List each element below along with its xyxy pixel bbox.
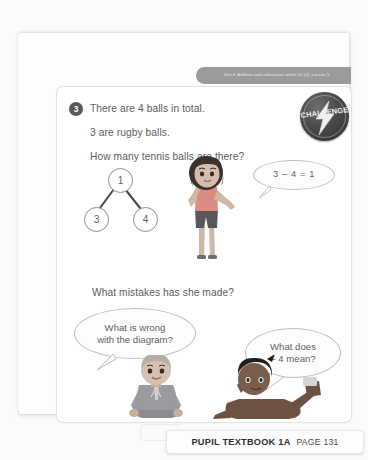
part-whole-diagram: 1 3 4 [75, 167, 167, 237]
unit-banner-text: Unit 4: Addition and subtraction within … [224, 73, 330, 78]
page-sheet: Unit 4: Addition and subtraction within … [19, 33, 349, 414]
lying-boy [213, 355, 321, 419]
textbook-page-viewer: Unit 4: Addition and subtraction within … [0, 0, 368, 460]
girl-character-illustration [169, 155, 243, 263]
part-whole-part-b: 4 [133, 207, 158, 232]
left-bubble-text: What is wrong with the diagram? [88, 322, 182, 346]
unit-banner: Unit 4: Addition and subtraction within … [196, 67, 351, 84]
page-label: PAGE 131 [297, 437, 339, 447]
challenge-badge: CHALLENGE [300, 92, 349, 141]
question-number-badge: 3 [69, 102, 83, 116]
question-card: 3 There are 4 balls in total. 3 are rugb… [56, 86, 352, 423]
kids-illustration [109, 355, 324, 425]
question-line-4: What mistakes has she made? [92, 287, 234, 298]
left-speech-bubble: What is wrong with the diagram? [74, 308, 196, 359]
part-whole-part-a: 3 [84, 207, 109, 232]
question-line-2: 3 are rugby balls. [90, 127, 170, 138]
question-line-1: There are 4 balls in total. [90, 103, 205, 114]
part-whole-whole: 1 [108, 168, 133, 193]
book-title: PUPIL TEXTBOOK 1A [191, 437, 290, 447]
equation-text: 3 – 4 = 1 [264, 169, 324, 181]
bubble-tail-icon [258, 186, 274, 198]
bottom-status-bar: PUPIL TEXTBOOK 1A PAGE 131 [166, 430, 364, 454]
lightning-bolt-icon [300, 92, 349, 141]
equation-speech-bubble: 3 – 4 = 1 [253, 160, 335, 190]
sitting-boy [129, 355, 183, 418]
